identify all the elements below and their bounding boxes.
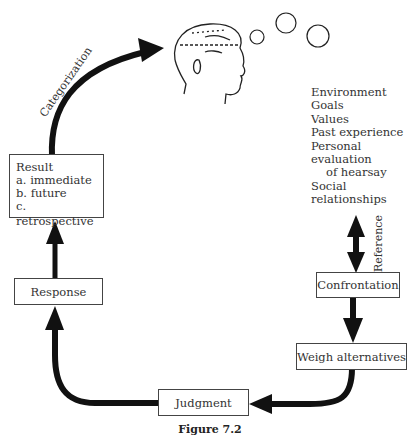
arrowhead-icon bbox=[45, 306, 64, 330]
thought-bubble-icon bbox=[250, 13, 329, 47]
factor-item: Social relationships bbox=[311, 180, 420, 207]
factor-item: Past experience bbox=[311, 126, 420, 139]
arrowhead-icon bbox=[138, 38, 164, 62]
arrowhead-icon bbox=[249, 394, 272, 414]
weigh-alternatives-box: Weigh alternatives bbox=[296, 343, 407, 370]
confrontation-label: Confrontation bbox=[317, 278, 398, 292]
response-box: Response bbox=[14, 278, 103, 305]
factor-item: Goals bbox=[311, 99, 420, 112]
factor-item-continuation: of hearsay bbox=[311, 166, 420, 179]
decision-cycle-diagram: Categorization Reference Environment Goa… bbox=[0, 0, 420, 440]
factor-item: Personal evaluation bbox=[311, 140, 420, 167]
factor-item: Values bbox=[311, 113, 420, 126]
result-box: Result a. immediate b. future c. retrosp… bbox=[9, 154, 104, 218]
figure-caption: Figure 7.2 bbox=[0, 423, 420, 436]
response-label: Response bbox=[31, 285, 87, 299]
head-profile-icon bbox=[175, 24, 245, 104]
weigh-alternatives-label: Weigh alternatives bbox=[297, 350, 406, 364]
judgment-box: Judgment bbox=[158, 389, 249, 416]
arrowhead-icon bbox=[347, 252, 365, 273]
result-item: c. retrospective bbox=[16, 199, 97, 229]
reference-label: Reference bbox=[372, 215, 385, 272]
arrowhead-icon bbox=[347, 215, 365, 237]
arrowhead-icon bbox=[343, 318, 363, 343]
factor-item: Environment bbox=[311, 86, 420, 99]
categorization-arrow-path bbox=[52, 52, 145, 156]
judgment-label: Judgment bbox=[175, 396, 231, 410]
confrontation-box: Confrontation bbox=[316, 272, 400, 298]
factors-list: Environment Goals Values Past experience… bbox=[311, 86, 420, 207]
